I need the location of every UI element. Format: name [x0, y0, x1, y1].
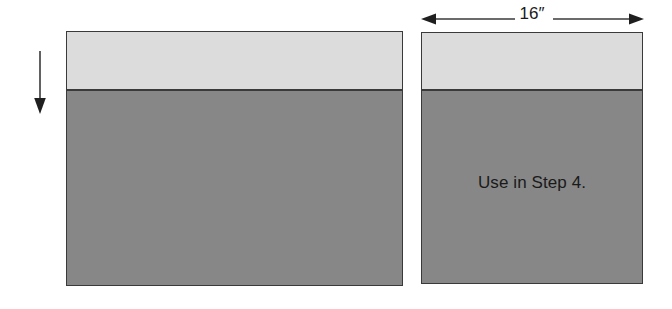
panel-right-light-band: [422, 33, 642, 90]
panel-right-divider: [422, 89, 642, 91]
panel-left-light-band: [67, 32, 402, 90]
arrow-down-icon: [26, 50, 54, 116]
panel-right-caption: Use in Step 4.: [422, 173, 642, 193]
panel-left-divider: [67, 89, 402, 91]
panel-left-dark-band: [67, 90, 402, 285]
panel-left: [66, 31, 403, 286]
panel-right: Use in Step 4.: [421, 32, 643, 284]
figure-canvas: 16″ Use in Step 4.: [0, 0, 672, 309]
dimension-label: 16″: [415, 4, 649, 24]
